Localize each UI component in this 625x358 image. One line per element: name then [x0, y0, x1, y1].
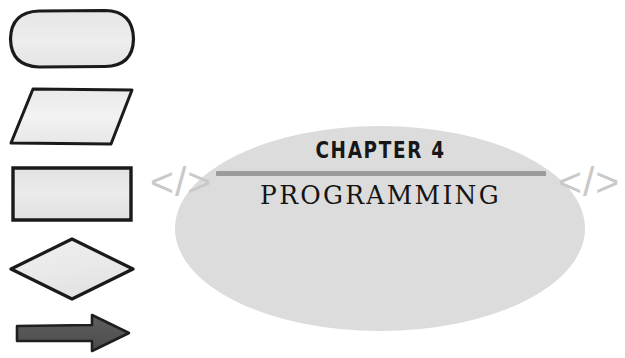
title-divider	[216, 171, 546, 176]
chapter-title: PROGRAMMING	[220, 182, 542, 209]
chapter-title-page: </> </> CHAPTER 4 PROGRAMMING	[0, 0, 625, 358]
shape-process-rectangle	[10, 165, 134, 227]
chapter-text-block: CHAPTER 4 PROGRAMMING	[213, 138, 548, 209]
shape-input-output-parallelogram	[8, 86, 136, 152]
shape-decision-diamond	[8, 236, 136, 306]
flowchart-shape-column	[0, 0, 150, 358]
code-bracket-left-icon: </>	[150, 162, 212, 203]
shape-terminator-rounded-rectangle	[8, 8, 136, 74]
chapter-emblem: </> </> CHAPTER 4 PROGRAMMING	[150, 110, 625, 350]
chapter-number: CHAPTER 4	[247, 138, 515, 162]
code-bracket-right-icon: </>	[558, 162, 620, 203]
shape-flow-arrow	[14, 312, 132, 358]
